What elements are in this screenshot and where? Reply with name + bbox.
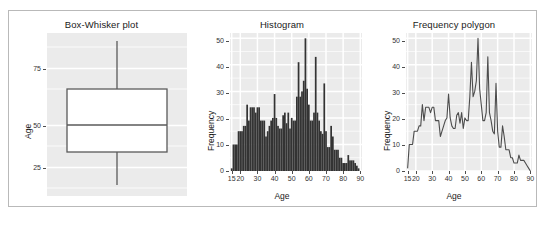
xtick-mark-polygon-70 xyxy=(498,171,499,174)
ytick-mark-poly-0 xyxy=(402,171,405,172)
histogram-bar xyxy=(299,97,301,171)
histogram-bar xyxy=(236,144,238,171)
histogram-bar xyxy=(258,107,260,171)
histogram-bar xyxy=(342,163,344,171)
histogram-bar xyxy=(358,168,360,171)
histogram-bar xyxy=(332,137,334,172)
histogram-bar xyxy=(296,97,298,171)
xtick-mark-histogram-60 xyxy=(309,171,310,174)
histogram-bar xyxy=(245,126,247,171)
xtick-mark-polygon-40 xyxy=(449,171,450,174)
histogram-bar xyxy=(293,121,295,171)
histogram-bar xyxy=(318,121,320,171)
panel-title-histogram: Histogram xyxy=(194,19,370,30)
histogram-bar xyxy=(251,107,253,171)
xtick-mark-polygon-20 xyxy=(416,171,417,174)
xtick-mark-polygon-90 xyxy=(530,171,531,174)
ytick-mark-hist-50 xyxy=(226,41,229,42)
axis-label-x-histogram: Age xyxy=(194,191,370,201)
ytick-poly-30: 30 xyxy=(384,89,400,96)
ytick-mark-box-50 xyxy=(43,126,46,127)
histogram-bar xyxy=(269,126,271,171)
histogram-bar xyxy=(322,134,324,171)
ytick-poly-0: 0 xyxy=(384,167,400,174)
histogram-bar xyxy=(272,118,274,171)
ytick-poly-20: 20 xyxy=(384,115,400,122)
histogram-bar xyxy=(341,158,343,171)
histogram-bar xyxy=(298,62,300,171)
ytick-mark-poly-50 xyxy=(402,41,405,42)
histogram-bar xyxy=(248,121,250,171)
panel-title-box-whisker: Box-Whisker plot xyxy=(9,19,194,30)
plot-area-histogram xyxy=(230,33,362,171)
histogram-bar xyxy=(320,131,322,171)
histogram-bar xyxy=(289,129,291,171)
histogram-bar xyxy=(250,107,252,171)
histogram-bar xyxy=(274,94,276,171)
histogram-bar xyxy=(238,131,240,171)
ytick-poly-50: 50 xyxy=(384,37,400,44)
box-iqr xyxy=(67,89,167,152)
histogram-bar xyxy=(347,155,349,171)
xtick-mark-histogram-50 xyxy=(292,171,293,174)
panel-box-whisker: Box-Whisker plot Age 75 50 25 xyxy=(9,11,194,208)
histogram-bar xyxy=(329,147,331,171)
xtick-histogram-90: 90 xyxy=(350,175,370,182)
histogram-bar xyxy=(243,126,245,171)
ytick-poly-10: 10 xyxy=(384,141,400,148)
histogram-bar xyxy=(351,160,353,171)
ytick-mark-hist-40 xyxy=(226,67,229,68)
ytick-box-50: 50 xyxy=(25,122,41,129)
histogram-bar xyxy=(291,118,293,171)
ytick-mark-poly-40 xyxy=(402,67,405,68)
histogram-bar xyxy=(284,113,286,171)
histogram-bar xyxy=(315,57,317,171)
histogram-bar xyxy=(260,121,262,171)
histogram-bar xyxy=(234,144,236,171)
ytick-mark-poly-10 xyxy=(402,145,405,146)
panel-histogram: Histogram Frequency Age 50 40 30 20 10 0… xyxy=(194,11,370,208)
xtick-polygon-90: 90 xyxy=(520,175,540,182)
panel-title-frequency-polygon: Frequency polygon xyxy=(370,19,538,30)
histogram-bar xyxy=(275,118,277,171)
histogram-bar xyxy=(246,105,248,171)
ytick-hist-10: 10 xyxy=(208,141,224,148)
histogram-bar xyxy=(327,147,329,171)
histogram-bar xyxy=(311,121,313,171)
histogram-bar xyxy=(257,107,259,171)
histogram-bar xyxy=(349,160,351,171)
histogram-bar xyxy=(323,83,325,171)
ytick-hist-20: 20 xyxy=(208,115,224,122)
histogram-bar xyxy=(335,150,337,171)
xtick-mark-histogram-15 xyxy=(232,171,233,174)
xtick-mark-polygon-50 xyxy=(465,171,466,174)
ytick-hist-0: 0 xyxy=(208,167,224,174)
xtick-mark-polygon-60 xyxy=(481,171,482,174)
histogram-bar xyxy=(282,115,284,171)
ytick-mark-hist-10 xyxy=(226,145,229,146)
ytick-hist-40: 40 xyxy=(208,63,224,70)
histogram-bar xyxy=(353,160,355,171)
histogram-bar xyxy=(277,126,279,171)
histogram-bar xyxy=(303,81,305,171)
histogram-bar xyxy=(281,129,283,171)
histogram-bar xyxy=(241,131,243,171)
ytick-mark-poly-30 xyxy=(402,93,405,94)
ytick-box-75: 75 xyxy=(25,65,41,72)
plot-area-box-whisker xyxy=(47,33,187,196)
figure-frame: Box-Whisker plot Age 75 50 25 xyxy=(8,10,537,207)
histogram-bar xyxy=(308,105,310,171)
histogram-bar xyxy=(239,131,241,171)
histogram-bar xyxy=(287,113,289,171)
ytick-mark-hist-0 xyxy=(226,171,229,172)
panel-frequency-polygon: Frequency polygon Frequency Age 50 40 30… xyxy=(370,11,538,208)
histogram-bar xyxy=(356,166,358,171)
histogram-bar xyxy=(337,150,339,171)
histogram-bar xyxy=(325,131,327,171)
xtick-mark-histogram-80 xyxy=(343,171,344,174)
histogram-bar xyxy=(279,129,281,171)
histogram-bar xyxy=(346,163,348,171)
histogram-bar xyxy=(339,158,341,171)
histogram-bar xyxy=(262,121,264,171)
histogram-bar xyxy=(306,89,308,171)
